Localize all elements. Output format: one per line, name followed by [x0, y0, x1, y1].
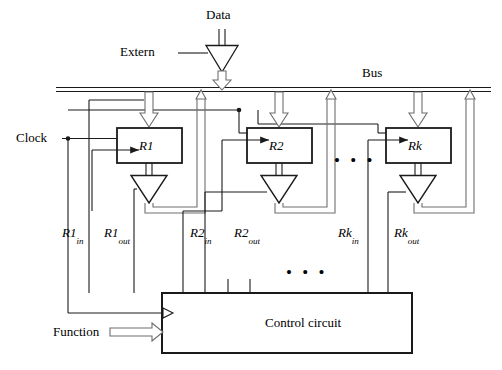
register-bus-diagram [0, 0, 502, 370]
signal-label-r2-out-sub: out [248, 236, 260, 246]
signal-label-r2-out: R2out [234, 226, 260, 243]
data-input-lines [219, 29, 225, 46]
clock-label: Clock [16, 131, 47, 144]
bus-lines [56, 88, 491, 92]
signal-label-r1-out-sub: out [118, 236, 130, 246]
register-label-r1: R1 [139, 139, 153, 152]
function-label: Function [53, 325, 99, 338]
register-label-rk: Rk [408, 139, 422, 152]
control-box-top-stubs [228, 279, 250, 293]
signal-label-r1-in: R1in [62, 226, 83, 243]
signal-label-r1-out: R1out [104, 226, 130, 243]
bus-to-r2-hollow-arrow [270, 92, 288, 127]
r1-out-datapath [146, 163, 152, 176]
control-circuit-label: Control circuit [265, 316, 341, 329]
control-ellipsis: • • • [286, 264, 327, 281]
signal-label-r2-in-base: R2 [190, 225, 204, 240]
signal-label-r1-in-base: R1 [62, 225, 76, 240]
control-line-r1-out [134, 189, 137, 293]
signal-label-r1-in-sub: in [76, 236, 83, 246]
rk-out-datapath [415, 163, 421, 176]
register-ellipsis-horizontal: • • • [334, 152, 375, 169]
signal-label-rk-out-base: Rk [394, 225, 408, 240]
function-hollow-arrow [110, 323, 163, 341]
signal-label-r2-in: R2in [190, 226, 211, 243]
signal-label-rk-in: Rkin [338, 226, 359, 243]
clock-junction-dot-r2 [237, 108, 242, 113]
r2-out-datapath [276, 163, 282, 176]
signal-label-rk-out-sub: out [408, 236, 420, 246]
signal-label-rk-in-sub: in [352, 236, 359, 246]
extern-tristate-buffer [206, 46, 238, 73]
r2-tristate-buffer [261, 176, 297, 204]
extern-label: Extern [120, 45, 155, 58]
figure-canvas: Data Extern Bus Clock R1 R2 Rk • • • • •… [0, 0, 502, 370]
clock-junction-dot-left [66, 136, 71, 141]
signal-label-rk-in-base: Rk [338, 225, 352, 240]
register-label-r2: R2 [269, 139, 283, 152]
bus-to-rk-hollow-arrow [409, 92, 427, 127]
signal-label-r2-out-base: R2 [234, 225, 248, 240]
bus-label: Bus [362, 66, 382, 79]
signal-label-r2-in-sub: in [204, 236, 211, 246]
data-label: Data [206, 8, 231, 21]
signal-label-rk-out: Rkout [394, 226, 419, 243]
signal-label-r1-out-base: R1 [104, 225, 118, 240]
rk-tristate-buffer [400, 176, 436, 204]
